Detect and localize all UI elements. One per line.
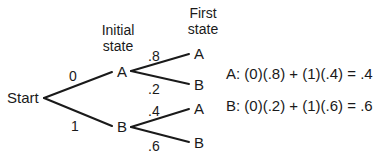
- branch-a-to-a: [131, 54, 189, 71]
- node-first-bb: B: [194, 135, 204, 151]
- header-initial-line1: Initial: [100, 22, 136, 38]
- header-initial-line2: state: [100, 38, 136, 54]
- edge-label-start-b: 1: [71, 118, 79, 134]
- node-first-ba: A: [194, 101, 204, 117]
- branch-a-to-b: [131, 71, 189, 84]
- node-first-ab: B: [194, 77, 204, 93]
- edge-label-b-a: .4: [148, 103, 160, 119]
- node-first-aa: A: [194, 46, 204, 62]
- edge-label-a-a: .8: [148, 48, 160, 64]
- branch-b-to-b: [131, 127, 189, 142]
- header-first-line2: state: [185, 21, 221, 37]
- equation-a: A: (0)(.8) + (1)(.4) = .4: [226, 66, 373, 82]
- branch-b-to-a: [131, 109, 189, 127]
- node-start: Start: [7, 90, 39, 106]
- branch-start-to-a: [44, 72, 112, 98]
- header-initial-state: Initial state: [100, 22, 136, 54]
- node-initial-a: A: [117, 64, 127, 80]
- edge-label-a-b: .2: [148, 81, 160, 97]
- equation-b: B: (0)(.2) + (1)(.6) = .6: [226, 98, 373, 114]
- probability-tree-diagram: Initial state First state Start A B A B …: [0, 0, 383, 155]
- node-initial-b: B: [117, 119, 127, 135]
- header-first-state: First state: [185, 5, 221, 37]
- edge-label-start-a: 0: [69, 68, 77, 84]
- header-first-line1: First: [185, 5, 221, 21]
- edge-label-b-b: .6: [148, 138, 160, 154]
